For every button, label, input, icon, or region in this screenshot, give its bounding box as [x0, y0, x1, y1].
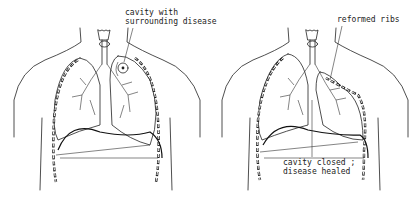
thorax-illustration-before — [0, 0, 208, 203]
chest-diagram-after: reformed ribs cavity closed ; disease he… — [208, 0, 416, 203]
label-cavity-closed: cavity closed ; disease healed — [283, 158, 355, 176]
label-reformed-ribs: reformed ribs — [337, 15, 400, 24]
chest-diagram-before: cavity with surrounding disease — [0, 0, 208, 203]
label-cavity-with-disease: cavity with surrounding disease — [125, 8, 217, 26]
